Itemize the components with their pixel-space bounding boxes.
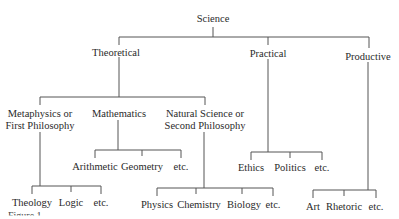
node-metaphysics-line1: Metaphysics or (8, 108, 72, 119)
node-math-etc: etc. (174, 161, 189, 172)
node-arithmetic: Arithmetic (72, 161, 118, 172)
node-chemistry: Chemistry (177, 199, 221, 210)
node-politics: Politics (274, 162, 306, 173)
node-art: Art (306, 201, 320, 212)
node-theoretical: Theoretical (92, 47, 140, 58)
node-meta-etc: etc. (94, 197, 109, 208)
node-practical-etc: etc. (315, 162, 330, 173)
node-mathematics: Mathematics (92, 108, 146, 119)
node-productive: Productive (345, 51, 391, 62)
node-geometry: Geometry (121, 161, 163, 172)
node-ethics: Ethics (238, 162, 264, 173)
node-natural-etc: etc. (266, 199, 281, 210)
node-physics: Physics (141, 199, 173, 210)
node-biology: Biology (227, 199, 261, 210)
node-metaphysics-line2: First Philosophy (5, 120, 74, 131)
node-practical: Practical (250, 48, 287, 59)
node-natural-science-line2: Second Philosophy (165, 120, 246, 131)
node-productive-etc: etc. (369, 201, 384, 212)
node-logic: Logic (59, 197, 84, 208)
node-rhetoric: Rhetoric (326, 201, 362, 212)
node-natural-science-line1: Natural Science or (166, 108, 244, 119)
node-science: Science (197, 13, 230, 24)
node-theology: Theology (12, 197, 52, 208)
